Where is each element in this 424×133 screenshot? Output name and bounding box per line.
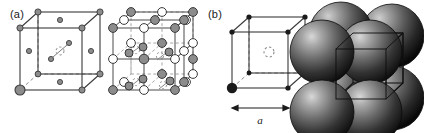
crystal-structure-figure: (a) (b) [0, 0, 424, 133]
atom-grey [189, 55, 198, 64]
atom-grey-interior [139, 43, 147, 51]
atom-face-back [66, 40, 71, 45]
atom-corner-hidden [35, 71, 41, 77]
atom-face-bottom [57, 79, 62, 84]
atom-corner [35, 9, 41, 15]
lattice-parameter-label: a [257, 114, 263, 126]
atom-grey [189, 8, 198, 17]
atom-corner [17, 25, 23, 31]
body-centre-site [264, 47, 274, 57]
atom-corner [79, 87, 85, 93]
atom-corner-dot [285, 29, 290, 34]
atom-white [120, 16, 129, 25]
atom-corner [97, 9, 103, 15]
atom-corner [79, 25, 85, 31]
atom-white [127, 39, 136, 48]
atom-white [158, 8, 167, 17]
atom-grey-interior [166, 77, 174, 85]
atom-grey [158, 70, 167, 79]
atom-white [189, 39, 198, 48]
atom-corner-dot-hidden [247, 71, 252, 76]
fcc-unit-cell [15, 9, 103, 95]
atom-grey-interior [125, 49, 133, 57]
figure-canvas: a [0, 0, 424, 133]
atom-grey [171, 24, 180, 33]
packed-sphere-front-left-top [290, 20, 354, 84]
atom-corner-dot [246, 14, 251, 19]
atom-grey [109, 86, 118, 95]
atom-grey [127, 8, 136, 17]
atom-corner-dot [302, 14, 307, 19]
atom-corner-emphasised [227, 83, 237, 93]
atom-corner-dot [229, 29, 234, 34]
atom-grey [151, 16, 160, 25]
atom-face-left [26, 48, 31, 53]
atom-grey-interior [165, 48, 173, 56]
atom-grey [158, 39, 167, 48]
rocksalt-lattice [109, 8, 198, 95]
atom-grey [109, 24, 118, 33]
atom-grey-interior [125, 82, 133, 90]
atom-face-top [57, 17, 62, 22]
atom-grey [139, 54, 149, 64]
rocksalt-interstitial-sites [132, 46, 166, 88]
atom-corner [97, 71, 103, 77]
atom-white [180, 47, 189, 56]
atom-grey [180, 78, 189, 87]
atom-grey [180, 16, 189, 25]
atom-grey-interior [139, 75, 147, 83]
atom-corner-highlight [15, 85, 25, 95]
atom-white [140, 24, 149, 33]
atom-white [171, 55, 180, 64]
atom-face-right [88, 48, 93, 53]
sphere-packing [290, 2, 424, 133]
lattice-parameter-arrow [232, 105, 289, 110]
atom-white [140, 86, 149, 95]
atom-face-front [48, 56, 53, 61]
atom-white [189, 70, 198, 79]
atom-white [109, 55, 118, 64]
atom-corner-dot [285, 85, 290, 90]
rocksalt-bond-connectors [131, 46, 169, 89]
atom-grey [171, 86, 180, 95]
